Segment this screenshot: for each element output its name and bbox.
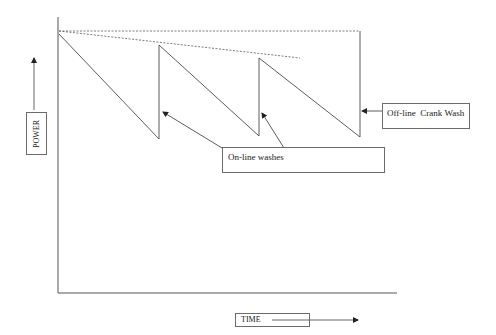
online-washes-callout: On-line washes	[222, 147, 385, 173]
power-axis-label: POWER	[32, 120, 41, 148]
power-sawtooth-curve	[59, 31, 360, 139]
online-washes-label: On-line washes	[228, 152, 284, 162]
power-label-box: POWER	[26, 112, 47, 155]
online-wash-pointer-2	[262, 113, 284, 148]
online-recovery-trend-dashed-line	[59, 31, 300, 58]
time-axis-label: TIME	[241, 315, 261, 324]
time-label-box: TIME	[235, 313, 310, 327]
offline-crank-wash-label: Off-line Crank Wash	[387, 108, 464, 118]
offline-crank-wash-callout: Off-line Crank Wash	[382, 103, 470, 129]
online-wash-pointer-1	[163, 112, 222, 148]
